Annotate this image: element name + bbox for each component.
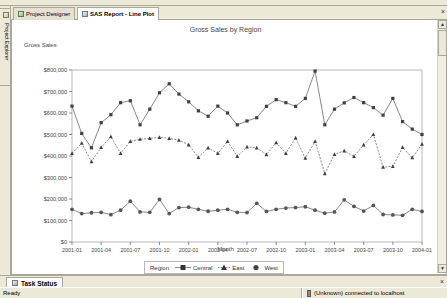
tab-project-designer[interactable]: Project Designer xyxy=(13,7,75,20)
close-icon[interactable]: × xyxy=(441,8,445,16)
chart-legend: Region Central East xyxy=(144,261,284,274)
svg-text:2003-07: 2003-07 xyxy=(354,247,374,253)
svg-text:2002-01: 2002-01 xyxy=(179,247,199,253)
project-explorer-label: Project Explorer xyxy=(1,23,10,61)
svg-text:2003-01: 2003-01 xyxy=(295,247,315,253)
report-canvas: Gross Sales by Region Gross Sales Month … xyxy=(11,20,447,275)
scroll-down-icon[interactable]: ▼ xyxy=(438,264,447,273)
svg-text:$700,000: $700,000 xyxy=(44,89,67,95)
canvas-scrollbar[interactable]: ▲ ▼ xyxy=(437,20,446,273)
statusbar: Ready (Unknown) connected to localhost xyxy=(0,287,447,298)
tab-project-designer-label: Project Designer xyxy=(26,11,70,17)
status-connection-label: (Unknown) connected to localhost xyxy=(314,290,404,296)
legend-marker-triangle-icon xyxy=(218,264,230,271)
sidebar-item-project-explorer[interactable]: Project Explorer xyxy=(0,8,11,86)
svg-text:2001-04: 2001-04 xyxy=(91,247,111,253)
tab-sas-report-line-plot[interactable]: SAS Report - Line Plot xyxy=(77,7,159,20)
svg-text:2002-07: 2002-07 xyxy=(237,247,257,253)
task-status-icon xyxy=(12,280,18,286)
document-window: Project Designer SAS Report - Line Plot … xyxy=(11,6,447,275)
svg-text:2004-01: 2004-01 xyxy=(412,247,432,253)
svg-text:$200,000: $200,000 xyxy=(44,196,67,202)
svg-text:2003-10: 2003-10 xyxy=(383,247,403,253)
svg-text:$300,000: $300,000 xyxy=(44,175,67,181)
tab-sas-report-line-plot-label: SAS Report - Line Plot xyxy=(90,11,154,17)
bottom-dock-close-icon[interactable]: × xyxy=(440,277,444,286)
legend-marker-circle-icon xyxy=(250,264,262,271)
svg-text:$800,000: $800,000 xyxy=(44,67,67,73)
scrollbar-thumb[interactable] xyxy=(438,30,447,56)
svg-text:$600,000: $600,000 xyxy=(44,110,67,116)
legend-title: Region xyxy=(150,265,169,271)
legend-label-east: East xyxy=(232,265,244,271)
scroll-up-icon[interactable]: ▲ xyxy=(438,20,447,29)
left-dock: Project Explorer xyxy=(0,6,11,275)
project-designer-icon xyxy=(18,11,24,17)
svg-text:2001-10: 2001-10 xyxy=(150,247,170,253)
legend-label-central: Central xyxy=(193,265,212,271)
legend-item-east[interactable]: East xyxy=(218,264,244,271)
sas-enterprise-guide-window: Project Explorer Project Designer SAS Re… xyxy=(0,0,447,298)
document-tabbar: Project Designer SAS Report - Line Plot … xyxy=(11,6,447,20)
bottom-dock: Task Status × xyxy=(0,275,447,287)
svg-text:$100,000: $100,000 xyxy=(44,218,67,224)
project-explorer-icon xyxy=(3,12,9,18)
svg-text:$500,000: $500,000 xyxy=(44,132,67,138)
legend-item-west[interactable]: West xyxy=(250,264,278,271)
svg-text:2002-10: 2002-10 xyxy=(266,247,286,253)
report-icon xyxy=(82,11,88,17)
svg-text:2003-04: 2003-04 xyxy=(325,247,345,253)
legend-marker-square-icon xyxy=(175,264,191,271)
legend-item-central[interactable]: Central xyxy=(175,264,212,271)
svg-text:2001-07: 2001-07 xyxy=(120,247,140,253)
status-connection: (Unknown) connected to localhost xyxy=(302,288,447,298)
svg-text:$0: $0 xyxy=(61,239,67,245)
svg-text:$400,000: $400,000 xyxy=(44,153,67,159)
svg-text:2001-01: 2001-01 xyxy=(62,247,82,253)
status-message: Ready xyxy=(0,288,302,298)
connection-icon xyxy=(307,290,311,297)
line-plot: $0$100,000$200,000$300,000$400,000$500,0… xyxy=(12,20,439,273)
svg-text:2002-04: 2002-04 xyxy=(208,247,228,253)
legend-label-west: West xyxy=(264,265,278,271)
tab-task-status-label: Task Status xyxy=(21,280,57,287)
